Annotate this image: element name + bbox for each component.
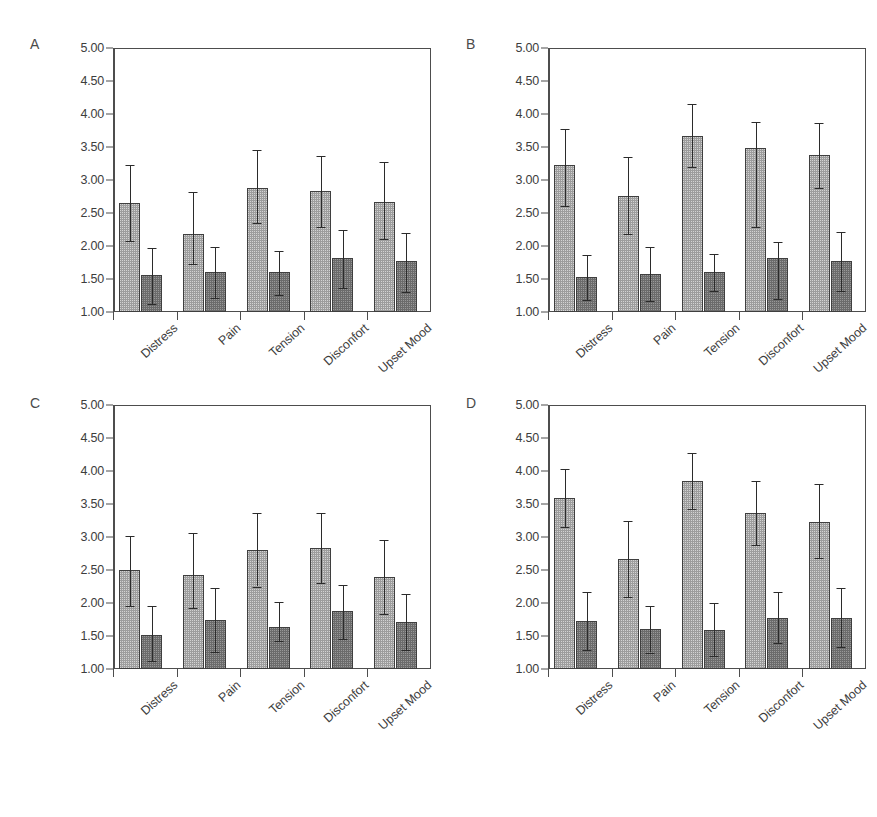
x-axis-separator-tick [177,669,178,677]
error-bar-cap-lower [147,661,156,662]
error-bar-dark [841,588,842,647]
error-bar-cap-upper [380,540,389,541]
error-bar-light [565,129,566,206]
y-axis-tick-label: 2.50 [515,563,539,577]
error-bar-cap-lower [646,653,655,654]
error-bar-dark [215,588,216,652]
y-axis-tick-label: 1.00 [80,662,104,676]
x-axis-category-label: Tension [701,678,742,717]
error-bar-light [756,122,757,227]
error-bar-cap-lower [253,587,262,588]
y-axis-tick-mark [541,669,548,670]
error-bar-cap-upper [125,165,134,166]
x-axis-separator-tick [739,669,740,677]
x-axis-category-label: Tension [266,321,307,360]
error-bar-cap-lower [189,608,198,609]
error-bar-dark [650,606,651,652]
y-axis-tick-mark [541,48,548,49]
error-bar-cap-lower [837,647,846,648]
error-bar-cap-upper [582,592,591,593]
y-axis-tick-mark [106,438,113,439]
error-bar-cap-lower [338,639,347,640]
x-axis-separator-tick [675,312,676,320]
figure-panel-grid: A1.001.502.002.503.003.504.004.505.00Dis… [0,0,877,817]
error-bar-cap-upper [646,247,655,248]
y-axis-tick-label: 1.50 [515,272,539,286]
chart-panel-b: B1.001.502.002.503.003.504.004.505.00Dis… [438,0,877,383]
error-bar-dark [279,602,280,641]
error-bar-cap-upper [560,129,569,130]
plot-area: 1.001.502.002.503.003.504.004.505.00Dist… [548,405,866,669]
x-axis-separator-tick [548,312,549,320]
error-bar-cap-lower [338,288,347,289]
error-bar-light [321,513,322,583]
y-axis-tick-label: 1.50 [80,272,104,286]
error-bar-cap-lower [837,291,846,292]
chart-panel-a: A1.001.502.002.503.003.504.004.505.00Dis… [0,0,438,383]
y-axis-tick-mark [106,279,113,280]
y-axis-tick-mark [106,405,113,406]
x-axis-category-label: Upset Mood [811,321,870,376]
error-bar-light [193,533,194,608]
error-bar-dark [587,255,588,300]
x-axis-separator-tick [304,669,305,677]
error-bar-light [321,156,322,227]
error-bar-cap-upper [211,588,220,589]
x-axis-category-label: Disconfort [321,678,371,725]
y-axis-tick-label: 2.00 [80,596,104,610]
y-axis-tick-label: 3.50 [80,497,104,511]
y-axis-tick-mark [541,405,548,406]
y-axis-tick-label: 4.00 [80,464,104,478]
error-bar-cap-lower [380,239,389,240]
y-axis-tick-mark [541,312,548,313]
y-axis-tick-label: 5.00 [515,41,539,55]
error-bar-light [692,453,693,510]
panel-letter: B [466,36,476,52]
error-bar-cap-upper [815,123,824,124]
y-axis-tick-label: 1.00 [515,305,539,319]
y-axis-tick-mark [106,636,113,637]
error-bar-cap-upper [773,592,782,593]
y-axis-tick-label: 2.00 [515,596,539,610]
error-bar-light [257,513,258,586]
error-bar-cap-lower [316,583,325,584]
y-axis-tick-mark [541,213,548,214]
x-axis-category-label: Tension [701,321,742,360]
error-bar-cap-lower [815,558,824,559]
error-bar-cap-upper [751,122,760,123]
y-axis-tick-mark [106,312,113,313]
error-bar-dark [650,247,651,302]
y-axis-tick-label: 1.50 [515,629,539,643]
y-axis-tick-mark [106,471,113,472]
error-bar-dark [841,232,842,291]
error-bar-cap-upper [710,603,719,604]
y-axis-tick-label: 3.00 [515,173,539,187]
error-bar-cap-upper [582,255,591,256]
panel-letter: C [30,395,41,411]
error-bar-cap-upper [147,248,156,249]
error-bar-cap-upper [211,247,220,248]
error-bar-light [565,469,566,527]
y-axis-tick-label: 3.00 [80,173,104,187]
x-axis-category-label: Upset Mood [376,678,435,733]
x-axis-category-label: Upset Mood [811,678,870,733]
x-axis-separator-tick [675,669,676,677]
x-axis-category-label: Upset Mood [376,321,435,376]
x-axis-category-label: Disconfort [756,321,806,368]
y-axis-tick-mark [541,570,548,571]
error-bar-cap-lower [688,167,697,168]
y-axis-tick-mark [106,48,113,49]
x-axis-category-label: Distress [573,678,615,718]
x-axis-separator-tick [113,312,114,320]
y-axis-tick-label: 1.50 [80,629,104,643]
x-axis-separator-tick [548,669,549,677]
y-axis-tick-mark [106,180,113,181]
x-axis-separator-tick [739,312,740,320]
y-axis-tick-mark [541,246,548,247]
x-axis-category-label: Distress [138,321,180,361]
error-bar-light [628,521,629,598]
error-bar-cap-lower [275,295,284,296]
chart-panel-d: D1.001.502.002.503.003.504.004.505.00Dis… [438,383,877,783]
error-bar-cap-upper [710,254,719,255]
panel-letter: A [30,36,40,52]
